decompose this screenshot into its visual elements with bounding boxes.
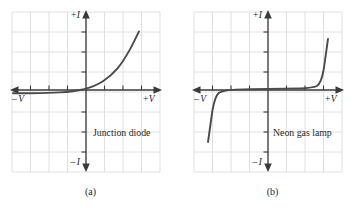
curve-label-junction-diode: Junction diode (93, 127, 151, 138)
curve-label-neon-gas-lamp: Neon gas lamp (273, 127, 332, 138)
panel-caption-b: (b) (182, 186, 363, 197)
x-axis-left-arrow-icon (192, 86, 201, 94)
y-axis-positive-letter-b: I (258, 10, 263, 20)
x-axis-positive-sign-b: + (325, 94, 330, 104)
panel-junction-diode: –V +V +I –I Junction diode (a) (0, 0, 181, 208)
x-axis-negative-label-a: –V (11, 94, 25, 104)
y-axis-positive-sign-b: + (253, 10, 258, 20)
plot-neon-gas-lamp: –V +V +I –I Neon gas lamp (182, 0, 363, 186)
y-axis-b (264, 10, 272, 172)
y-axis-up-arrow-icon (82, 10, 90, 19)
x-axis-positive-label-a: +V (143, 94, 156, 104)
y-axis-negative-label-a: –I (70, 157, 81, 167)
x-axis-positive-letter-a: V (149, 94, 156, 104)
y-axis-positive-label-b: +I (253, 10, 263, 20)
y-axis-negative-sign-b: – (252, 157, 258, 167)
curve-junction-diode (13, 31, 139, 93)
panel-caption-a: (a) (0, 186, 181, 197)
x-axis-right-arrow-icon (154, 86, 163, 94)
y-axis-positive-letter-a: I (76, 10, 81, 20)
x-axis-negative-label-b: –V (193, 94, 207, 104)
x-axis-negative-sign-b: – (193, 94, 199, 104)
x-axis-positive-label-b: +V (325, 94, 338, 104)
y-axis-down-arrow-icon (264, 164, 272, 173)
x-axis-negative-letter-b: V (200, 94, 207, 104)
y-axis-positive-label-a: +I (71, 10, 81, 20)
x-axis-negative-sign-a: – (11, 94, 17, 104)
x-axis-positive-sign-a: + (143, 94, 148, 104)
panel-neon-gas-lamp: –V +V +I –I Neon gas lamp (b) (182, 0, 363, 208)
figure-root: –V +V +I –I Junction diode (a) (0, 0, 363, 208)
x-axis-negative-letter-a: V (18, 94, 25, 104)
plot-junction-diode: –V +V +I –I Junction diode (0, 0, 181, 186)
y-axis-negative-sign-a: – (70, 157, 76, 167)
y-axis-a (82, 10, 90, 172)
y-axis-negative-label-b: –I (252, 157, 263, 167)
x-axis-right-arrow-icon (336, 86, 345, 94)
y-axis-positive-sign-a: + (71, 10, 76, 20)
y-axis-down-arrow-icon (82, 164, 90, 173)
x-axis-positive-letter-b: V (331, 94, 338, 104)
y-axis-up-arrow-icon (264, 10, 272, 19)
y-axis-negative-letter-b: I (258, 157, 263, 167)
y-axis-negative-letter-a: I (76, 157, 81, 167)
